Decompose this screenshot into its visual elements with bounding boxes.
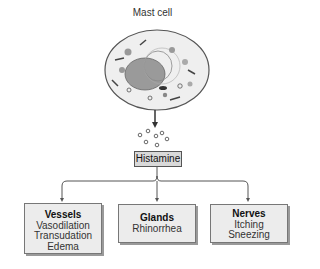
branch-connectors (62, 166, 248, 200)
vessels-box: Vessels Vasodilation Transudation Edema (24, 203, 102, 254)
vessels-heading: Vessels (25, 210, 101, 221)
nerves-heading: Nerves (211, 209, 287, 220)
mast-cell-illustration (105, 30, 209, 110)
nerves-box: Nerves Itching Sneezing (210, 204, 288, 243)
glands-effect: Rhinorrhea (119, 224, 195, 235)
vessels-effect: Transudation (25, 231, 101, 242)
glands-heading: Glands (119, 213, 195, 224)
vessels-effect: Edema (25, 242, 101, 253)
histamine-granules (138, 129, 169, 147)
glands-box: Glands Rhinorrhea (118, 204, 196, 243)
nerves-effect: Sneezing (211, 230, 287, 241)
histamine-box: Histamine (134, 151, 182, 167)
